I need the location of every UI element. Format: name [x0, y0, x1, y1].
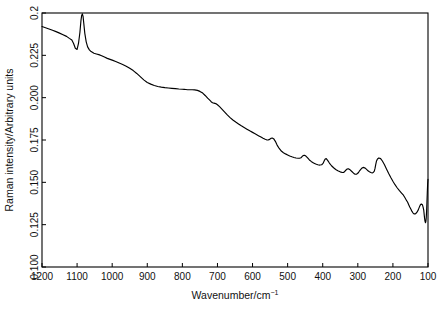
x-tick-label-1000: 1000 [101, 271, 124, 282]
x-tick-label-100: 100 [420, 271, 437, 282]
y-tick-label-0.200: 0.200 [29, 85, 40, 110]
y-axis-title: Raman intensity/Arbitrary units [3, 69, 15, 212]
x-tick-label-900: 900 [139, 271, 156, 282]
x-axis-title: Wavenumber/cm−1 [192, 289, 279, 301]
y-tick-label-0.225: 0.225 [29, 42, 40, 67]
y-tick-label-0.175: 0.175 [29, 127, 40, 152]
x-tick-label-300: 300 [349, 271, 366, 282]
y-tick-label-0.100: 0.100 [29, 254, 40, 279]
x-tick-label-800: 800 [174, 271, 191, 282]
x-tick-label-700: 700 [209, 271, 226, 282]
y-tick-label-0.125: 0.125 [29, 212, 40, 237]
x-tick-label-600: 600 [244, 271, 261, 282]
y-tick-label-0.2: 0.2 [29, 6, 40, 20]
x-tick-label-500: 500 [279, 271, 296, 282]
spectrum-plot-svg: 120011001000900800700600500400300200100 … [0, 0, 447, 312]
raman-spectrum-figure: 120011001000900800700600500400300200100 … [0, 0, 447, 312]
y-tick-label-0.150: 0.150 [29, 169, 40, 194]
figure-background [0, 0, 447, 312]
x-tick-label-200: 200 [385, 271, 402, 282]
x-tick-label-400: 400 [314, 271, 331, 282]
x-tick-label-1100: 1100 [66, 271, 88, 282]
